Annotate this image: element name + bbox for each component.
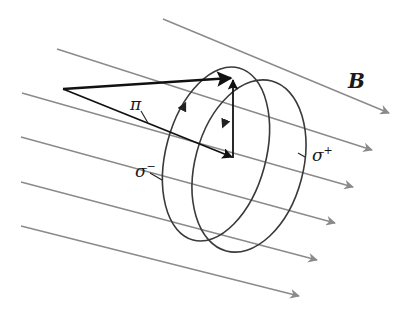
field-line [21,182,317,260]
pi-label: π [130,96,141,113]
sigma-plus-leader [298,153,305,157]
sigma-plus-label: σ+ [312,145,333,164]
field-line [163,19,389,113]
sigma-plus-superscript: + [324,144,333,157]
pi-symbol: π [130,94,141,114]
sigma-minus-ring [145,55,288,253]
zeeman-polarization-diagram [0,0,413,314]
field-line [21,226,299,296]
field-label-b: B [348,71,365,91]
magnetic-field-lines [21,19,389,296]
sigma-plus-symbol: σ [312,145,324,165]
sigma-minus-superscript: − [147,160,156,173]
field-line [57,49,372,150]
sigma-minus-label: σ− [135,161,156,180]
sigma-minus-symbol: σ [135,161,147,181]
field-line [21,137,335,223]
sigma-plus-ring [174,67,324,265]
upper-vector [63,78,231,89]
